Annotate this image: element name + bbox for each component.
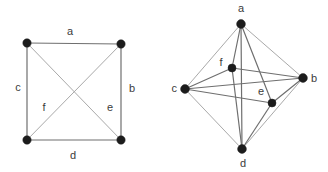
graph-canvas: abcdef abcdef	[0, 0, 328, 172]
graph-edge	[241, 24, 242, 149]
graph-vertex	[181, 85, 190, 94]
graph-edge	[185, 89, 242, 149]
graph-edge	[185, 78, 303, 89]
vertex-label: f	[219, 56, 223, 68]
graph-edge	[232, 68, 303, 78]
edge-label: b	[129, 82, 135, 94]
vertex-label: d	[240, 157, 246, 169]
graph-vertex	[117, 136, 125, 144]
edge-label: f	[42, 101, 46, 113]
graph-edge	[242, 103, 272, 149]
graph-edge	[242, 78, 303, 149]
edge-label: c	[15, 81, 21, 93]
graph-edge	[185, 24, 241, 89]
left-graph: abcdef	[15, 25, 135, 161]
graph-vertex	[238, 145, 247, 154]
edge-label: a	[67, 25, 74, 37]
vertex-label: c	[172, 82, 178, 94]
edge-label: d	[70, 149, 76, 161]
graph-edge	[241, 24, 303, 78]
vertex-label: b	[311, 72, 317, 84]
edge-label: e	[107, 101, 113, 113]
graph-edge	[27, 43, 121, 44]
graph-figure: abcdef abcdef	[0, 0, 328, 172]
graph-vertex	[299, 74, 308, 83]
graph-edge	[241, 24, 272, 103]
right-graph: abcdef	[172, 2, 318, 169]
graph-vertex	[23, 136, 31, 144]
graph-vertex	[268, 99, 276, 107]
graph-vertex	[117, 40, 125, 48]
graph-vertex	[23, 39, 31, 47]
graph-vertex	[228, 64, 236, 72]
graph-edge	[272, 78, 303, 103]
vertex-label: e	[258, 85, 264, 97]
graph-vertex	[237, 20, 246, 29]
graph-edge	[232, 68, 242, 149]
vertex-label: a	[238, 2, 245, 14]
graph-edge	[232, 24, 241, 68]
